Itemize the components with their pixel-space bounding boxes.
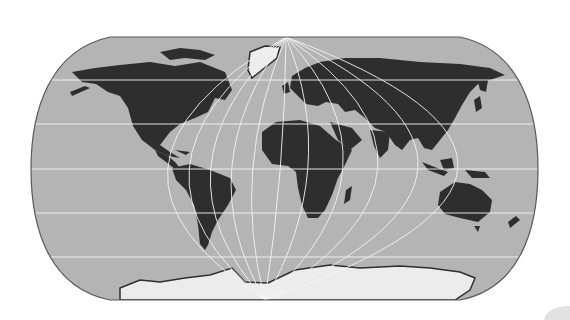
world-map xyxy=(0,0,570,320)
